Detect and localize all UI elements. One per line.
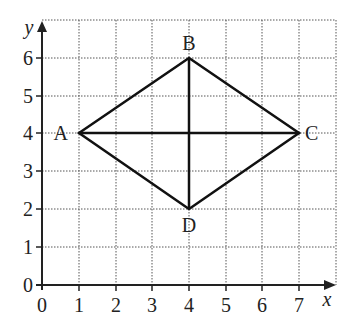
svg-text:3: 3 [147, 294, 157, 316]
svg-text:2: 2 [23, 198, 33, 220]
svg-text:3: 3 [23, 160, 33, 182]
rhombus [79, 58, 299, 209]
point-label-c: C [305, 122, 318, 144]
svg-text:7: 7 [294, 294, 304, 316]
svg-text:1: 1 [23, 236, 33, 258]
point-label-d: D [182, 214, 196, 236]
coordinate-grid-diagram: 0 1 2 3 4 5 6 7 0 1 2 3 4 5 6 y x A B C … [0, 0, 351, 330]
svg-text:0: 0 [37, 294, 47, 316]
tick-labels: 0 1 2 3 4 5 6 7 0 1 2 3 4 5 6 y x [23, 16, 332, 316]
point-label-a: A [54, 122, 69, 144]
svg-text:6: 6 [23, 47, 33, 69]
svg-text:0: 0 [23, 274, 33, 296]
svg-text:5: 5 [23, 85, 33, 107]
svg-text:6: 6 [257, 294, 267, 316]
y-axis-label: y [23, 16, 34, 39]
svg-text:2: 2 [111, 294, 121, 316]
y-axis-arrow-icon [37, 21, 47, 32]
svg-text:4: 4 [184, 294, 194, 316]
svg-text:5: 5 [221, 294, 231, 316]
point-label-b: B [182, 32, 195, 54]
svg-text:1: 1 [74, 294, 84, 316]
x-axis-label: x [322, 288, 332, 310]
svg-text:4: 4 [23, 122, 33, 144]
